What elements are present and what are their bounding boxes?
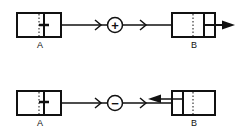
row-positive: A + B [17, 13, 235, 50]
diagram-canvas: A + B A − [0, 0, 251, 135]
row-negative: A − B [17, 91, 215, 128]
plus-icon: + [111, 18, 119, 33]
minus-icon: − [111, 96, 119, 111]
label-b: B [191, 118, 197, 128]
label-a: A [37, 118, 43, 128]
arrow-left-icon [148, 95, 161, 104]
label-b: B [191, 40, 197, 50]
box-a [17, 13, 61, 37]
arrow-right-icon [222, 21, 235, 30]
label-a: A [37, 40, 43, 50]
box-b [172, 13, 235, 37]
box-a [17, 91, 61, 115]
